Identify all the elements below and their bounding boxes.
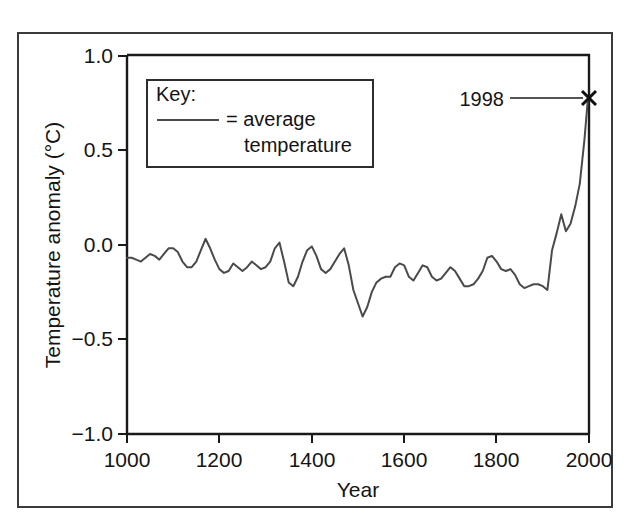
x-tick-label: 1800 xyxy=(473,448,520,471)
y-tick-label: 1.0 xyxy=(84,44,113,67)
legend-label-line2: temperature xyxy=(244,134,352,157)
x-tick-label: 1400 xyxy=(289,448,336,471)
chart-svg: 1.0 0.5 0.0 −0.5 −1.0 1000 1200 1400 160… xyxy=(0,0,639,519)
y-tick-label: 0.5 xyxy=(84,138,113,161)
legend-title: Key: xyxy=(156,83,196,106)
y-axis-ticks xyxy=(118,56,127,434)
x-axis-title: Year xyxy=(337,478,379,501)
x-tick-label: 2000 xyxy=(566,448,613,471)
x-tick-label: 1200 xyxy=(196,448,243,471)
x-tick-label: 1600 xyxy=(381,448,428,471)
x-axis-ticks xyxy=(127,434,589,443)
legend-label-line1: = average xyxy=(226,108,316,131)
temperature-anomaly-chart: 1.0 0.5 0.0 −0.5 −1.0 1000 1200 1400 160… xyxy=(0,0,639,519)
y-tick-label: 0.0 xyxy=(84,233,113,256)
y-tick-label: −0.5 xyxy=(72,327,113,350)
y-tick-label: −1.0 xyxy=(72,422,113,445)
y-axis-title: Temperature anomaly (°C) xyxy=(41,122,64,368)
x-axis-tick-labels: 1000 1200 1400 1600 1800 2000 xyxy=(104,448,613,471)
annotation-label-1998: 1998 xyxy=(460,88,505,110)
chart-legend: Key: = average temperature xyxy=(146,79,374,168)
y-axis-tick-labels: 1.0 0.5 0.0 −0.5 −1.0 xyxy=(72,44,113,445)
x-tick-label: 1000 xyxy=(104,448,151,471)
annotation-1998: 1998 xyxy=(460,88,597,110)
legend-line-swatch xyxy=(157,119,219,121)
